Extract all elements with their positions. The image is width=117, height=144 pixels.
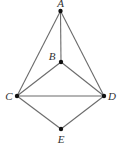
vertex-d-label: D (107, 90, 116, 102)
edge-bd (61, 62, 104, 96)
vertex-d-dot (102, 94, 106, 98)
vertex-c-dot (15, 94, 19, 98)
vertex-b-dot (59, 60, 63, 64)
edge-ce (17, 96, 61, 129)
vertex-e-dot (59, 127, 63, 131)
edge-de (61, 96, 104, 129)
vertex-a-dot (58, 9, 62, 13)
edge-ad (61, 11, 105, 96)
edge-ab (61, 11, 62, 62)
edges-group (17, 11, 104, 129)
vertex-e-label: E (57, 133, 65, 144)
graph-diagram: ABCDE (0, 0, 117, 144)
edge-bc (17, 62, 61, 96)
vertex-b-label: B (49, 50, 56, 62)
vertex-a-label: A (56, 0, 64, 9)
vertex-c-label: C (5, 90, 13, 102)
